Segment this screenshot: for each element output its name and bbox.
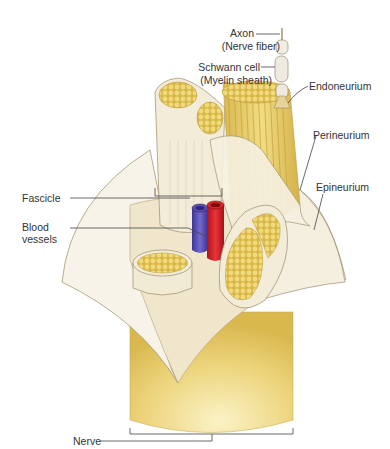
nerve-diagram: Axon (Nerve fiber) Schwann cell (Myelin … xyxy=(0,0,390,449)
blood-vessels xyxy=(192,201,224,261)
label-blood-line2: vessels xyxy=(22,233,57,245)
label-perineurium: Perineurium xyxy=(313,129,370,141)
label-blood-vessels: Blood vessels xyxy=(22,221,57,245)
label-endoneurium: Endoneurium xyxy=(309,80,371,92)
label-axon-line1: Axon xyxy=(200,27,254,39)
label-myelin-sheath: (Myelin sheath) xyxy=(168,74,272,86)
label-nerve: Nerve xyxy=(73,435,101,447)
label-schwann-line2: (Myelin sheath) xyxy=(168,74,272,86)
label-epineurium: Epineurium xyxy=(316,181,369,193)
label-axon-line2: (Nerve fiber) xyxy=(190,40,280,52)
fascicle-small-round xyxy=(133,250,192,295)
label-axon: Axon xyxy=(200,27,254,39)
label-schwann-cell: Schwann cell xyxy=(168,61,260,73)
label-blood-line1: Blood xyxy=(22,221,57,233)
label-schwann-line1: Schwann cell xyxy=(168,61,260,73)
label-nerve-fiber: (Nerve fiber) xyxy=(190,40,280,52)
label-fascicle: Fascicle xyxy=(22,192,61,204)
